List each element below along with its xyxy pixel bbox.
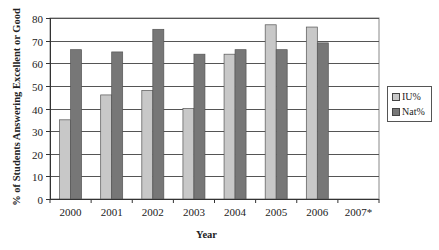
bar-nat-2006 (317, 43, 328, 199)
legend-item-nat: Nat% (392, 106, 425, 117)
x-tick-label: 2003 (183, 206, 206, 218)
plot-area (50, 18, 379, 199)
bar-nat-2004 (235, 50, 246, 199)
y-tick-label: 80 (32, 13, 44, 25)
bar-nat-2005 (276, 50, 287, 199)
bar-iu-2001 (101, 95, 112, 199)
legend-swatch-iu (392, 93, 400, 101)
bar-nat-2003 (194, 54, 205, 199)
bar-nat-2000 (71, 50, 82, 199)
bar-iu-2003 (183, 109, 194, 200)
x-axis-label: Year (196, 229, 217, 240)
x-tick-labels: 20002001200220032004200520062007* (60, 206, 373, 218)
bar-iu-2006 (306, 27, 317, 199)
bar-iu-2005 (265, 25, 276, 199)
bar-nat-2002 (153, 29, 164, 199)
y-tick-labels: 01020304050607080 (32, 13, 44, 206)
bar-iu-2000 (60, 120, 71, 199)
y-tick-label: 40 (32, 104, 44, 116)
x-tick-label: 2005 (265, 206, 288, 218)
x-tick-label: 2001 (101, 206, 123, 218)
legend-swatch-nat (392, 108, 400, 116)
x-tick-label: 2004 (224, 206, 247, 218)
bar-iu-2002 (142, 90, 153, 199)
y-tick-label: 70 (32, 36, 44, 48)
legend-label-nat: Nat% (402, 106, 425, 117)
y-tick-label: 30 (32, 126, 44, 138)
legend-item-iu: IU% (392, 91, 421, 102)
y-axis-label: % of Students Answering Excellent or Goo… (11, 7, 25, 207)
bar-chart: 01020304050607080 2000200120022003200420… (0, 0, 439, 250)
y-tick-label: 60 (32, 58, 44, 70)
y-tick-label: 50 (32, 81, 44, 93)
x-tick-label: 2002 (142, 206, 164, 218)
bar-nat-2001 (112, 52, 123, 199)
y-tick-label: 10 (32, 171, 44, 183)
x-tick-label: 2006 (306, 206, 329, 218)
y-tick-label: 20 (32, 149, 44, 161)
bar-iu-2004 (224, 54, 235, 199)
y-tick-label: 0 (38, 194, 44, 206)
legend: IU% Nat% (387, 86, 432, 122)
legend-label-iu: IU% (402, 91, 421, 102)
x-tick-label: 2000 (60, 206, 83, 218)
gridlines (50, 18, 379, 199)
x-tick-label: 2007* (345, 206, 373, 218)
